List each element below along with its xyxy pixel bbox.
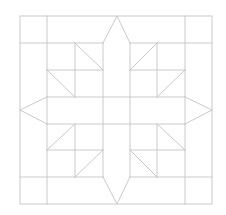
line-diag-bl-1 (47, 124, 75, 150)
grid-and-diagonal-lines (20, 16, 212, 204)
line-diag-tl-1 (75, 43, 103, 70)
quilt-diagram-canvas (0, 0, 226, 215)
line-diag-tr-2 (157, 70, 185, 97)
star-arm-left (20, 97, 47, 124)
star-arm-right (185, 97, 212, 124)
line-diag-tr-1 (130, 43, 157, 70)
line-diag-tl-2 (47, 70, 75, 97)
star-arm-bottom (103, 177, 130, 204)
star-arms (20, 16, 212, 204)
line-diag-br-2 (130, 150, 157, 177)
star-quilt-block-diagram (0, 0, 226, 215)
star-arm-top (103, 16, 130, 43)
line-diag-bl-2 (75, 150, 103, 177)
outer-border (20, 16, 212, 204)
line-diag-br-1 (157, 124, 185, 150)
